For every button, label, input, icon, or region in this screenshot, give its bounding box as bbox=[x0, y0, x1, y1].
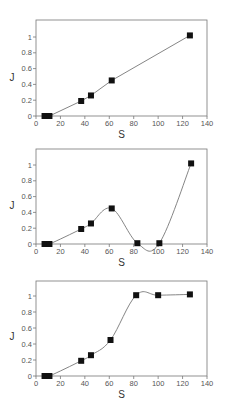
x-tick-label: 0 bbox=[34, 247, 38, 256]
plot-frame bbox=[36, 149, 207, 244]
x-axis: 020406080100120140 bbox=[34, 116, 213, 128]
y-axis-title: J bbox=[10, 72, 15, 83]
x-tick-label: 80 bbox=[130, 379, 138, 388]
data-point-marker bbox=[109, 77, 115, 83]
data-point-marker bbox=[188, 160, 194, 166]
data-point-marker bbox=[133, 292, 139, 298]
data-point-marker bbox=[88, 220, 94, 226]
chart-2: 00.20.40.60.81020406080100120140SJ bbox=[0, 128, 228, 268]
x-tick-label: 40 bbox=[81, 247, 89, 256]
x-tick-label: 60 bbox=[105, 247, 113, 256]
data-point-marker bbox=[78, 98, 84, 104]
x-tick-label: 100 bbox=[152, 247, 165, 256]
x-tick-label: 120 bbox=[176, 247, 189, 256]
data-point-marker bbox=[108, 337, 114, 343]
x-tick-label: 100 bbox=[152, 119, 165, 128]
x-tick-label: 0 bbox=[34, 379, 38, 388]
y-tick-label: 0.8 bbox=[22, 308, 32, 317]
data-point-marker bbox=[46, 373, 52, 379]
x-axis-title: S bbox=[118, 389, 125, 400]
data-point-marker bbox=[78, 226, 84, 232]
x-tick-label: 20 bbox=[56, 119, 64, 128]
y-axis: 00.20.40.60.81 bbox=[22, 292, 36, 381]
data-point-marker bbox=[78, 358, 84, 364]
data-line bbox=[45, 292, 190, 378]
x-tick-label: 40 bbox=[81, 119, 89, 128]
data-line bbox=[45, 163, 192, 251]
data-point-marker bbox=[134, 240, 140, 246]
y-tick-label: 0.6 bbox=[22, 192, 32, 201]
data-point-marker bbox=[187, 291, 193, 297]
y-axis: 00.20.40.60.81 bbox=[22, 33, 36, 121]
data-point-marker bbox=[46, 113, 52, 119]
y-tick-label: 0.2 bbox=[22, 224, 32, 233]
x-tick-label: 20 bbox=[56, 247, 64, 256]
x-tick-label: 100 bbox=[152, 379, 165, 388]
x-tick-label: 120 bbox=[176, 119, 189, 128]
y-tick-label: 0.8 bbox=[22, 48, 32, 57]
y-axis: 00.20.40.60.81 bbox=[22, 161, 36, 249]
y-tick-label: 0.4 bbox=[22, 208, 32, 217]
data-point-marker bbox=[156, 240, 162, 246]
y-tick-label: 0 bbox=[28, 112, 32, 121]
plot-frame bbox=[36, 281, 207, 376]
chart-1: 00.20.40.60.81020406080100120140SJ bbox=[0, 0, 228, 140]
y-tick-label: 0 bbox=[28, 240, 32, 249]
y-axis-title: J bbox=[10, 200, 15, 211]
x-tick-label: 60 bbox=[105, 379, 113, 388]
chart-3: 00.20.40.60.81020406080100120140SJ bbox=[0, 260, 228, 400]
y-tick-label: 0.2 bbox=[22, 96, 32, 105]
x-tick-label: 120 bbox=[176, 379, 189, 388]
y-tick-label: 1 bbox=[28, 161, 32, 170]
x-tick-label: 140 bbox=[201, 247, 214, 256]
data-point-marker bbox=[88, 352, 94, 358]
y-tick-label: 1 bbox=[28, 292, 32, 301]
plot-frame bbox=[36, 20, 207, 116]
x-tick-label: 0 bbox=[34, 119, 38, 128]
y-tick-label: 0.4 bbox=[22, 340, 32, 349]
y-tick-label: 0.4 bbox=[22, 80, 32, 89]
x-tick-label: 140 bbox=[201, 379, 214, 388]
data-point-marker bbox=[155, 292, 161, 298]
data-line bbox=[45, 35, 190, 116]
data-point-marker bbox=[187, 32, 193, 38]
data-point-marker bbox=[109, 205, 115, 211]
y-tick-label: 0.6 bbox=[22, 324, 32, 333]
x-axis: 020406080100120140 bbox=[34, 244, 213, 256]
y-tick-label: 0.8 bbox=[22, 176, 32, 185]
data-point-marker bbox=[88, 92, 94, 98]
x-tick-label: 60 bbox=[105, 119, 113, 128]
x-tick-label: 20 bbox=[56, 379, 64, 388]
x-tick-label: 40 bbox=[81, 379, 89, 388]
y-tick-label: 0.6 bbox=[22, 64, 32, 73]
y-axis-title: J bbox=[10, 331, 15, 342]
y-tick-label: 1 bbox=[28, 33, 32, 42]
x-tick-label: 80 bbox=[130, 119, 138, 128]
x-axis: 020406080100120140 bbox=[34, 376, 213, 388]
x-tick-label: 140 bbox=[201, 119, 214, 128]
y-tick-label: 0 bbox=[28, 372, 32, 381]
y-tick-label: 0.2 bbox=[22, 356, 32, 365]
x-tick-label: 80 bbox=[130, 247, 138, 256]
data-point-marker bbox=[46, 241, 52, 247]
